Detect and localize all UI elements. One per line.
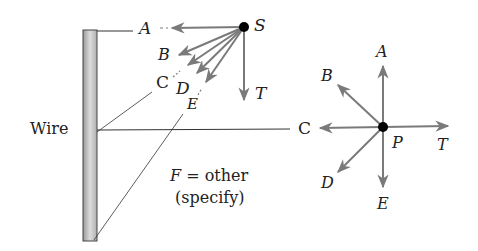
diagram-canvas	[0, 0, 478, 251]
arrow-P-D	[338, 127, 383, 172]
caption-line1: F = other	[170, 168, 248, 184]
arrow-S-D	[197, 27, 244, 73]
source-dot-S	[239, 22, 249, 32]
arrow-S-A	[172, 27, 244, 28]
label-right-B: B	[321, 68, 333, 84]
label-right-A: A	[376, 44, 388, 60]
caption-F: F	[170, 166, 181, 185]
label-point-P: P	[392, 135, 403, 151]
dash-C	[173, 71, 180, 77]
label-left-B: B	[158, 47, 170, 63]
label-right-D: D	[321, 175, 334, 191]
caption-line2: (specify)	[175, 190, 244, 206]
wire	[83, 30, 97, 241]
caption-rest: = other	[181, 166, 248, 185]
arrow-P-B	[338, 85, 383, 127]
point-dot-P	[378, 122, 388, 132]
arrow-P-C	[320, 127, 383, 128]
label-left-E: E	[187, 97, 198, 112]
line-wire-to-C-label	[97, 92, 152, 132]
arrow-S-C	[188, 27, 244, 65]
line-wire-horizontal-to-C	[97, 129, 290, 130]
label-right-C: C	[298, 120, 311, 137]
label-right-E: E	[377, 196, 389, 212]
label-wire: Wire	[30, 121, 68, 137]
arrow-P-T	[383, 126, 448, 127]
label-left-C: C	[156, 74, 169, 91]
label-source-S: S	[254, 17, 266, 34]
label-left-A: A	[139, 20, 151, 37]
label-right-T: T	[437, 137, 448, 153]
dash-E	[198, 88, 202, 95]
label-left-T: T	[255, 85, 266, 102]
